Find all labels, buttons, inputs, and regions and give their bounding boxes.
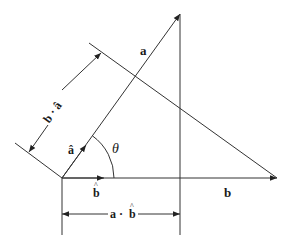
- label-a-hat: â: [68, 143, 74, 157]
- label-b: b: [224, 185, 231, 200]
- label-theta: θ: [112, 141, 119, 156]
- svg-text:a ·: a ·: [110, 207, 123, 221]
- svg-text:b · â: b · â: [40, 99, 65, 126]
- svg-text:^: ^: [130, 202, 134, 211]
- unit-vector-a-hat: [62, 145, 86, 178]
- projection-line-perpendicular: [89, 43, 277, 178]
- label-a-dot-b-hat: a · b ^: [108, 202, 138, 221]
- theta-arc: [92, 136, 114, 178]
- dimension-b-dot-a-hat-upper: [62, 53, 101, 90]
- origin-perpendicular-extension: [15, 143, 62, 178]
- label-b-dot-a-hat: b · â: [40, 99, 65, 126]
- label-a: a: [140, 43, 147, 58]
- diagram-canvas: a b â θ b ^ a · b ^ b · â: [0, 0, 290, 246]
- label-b-hat: b ^: [93, 181, 100, 200]
- svg-text:^: ^: [94, 181, 98, 190]
- dimension-b-dot-a-hat-lower: [29, 125, 48, 152]
